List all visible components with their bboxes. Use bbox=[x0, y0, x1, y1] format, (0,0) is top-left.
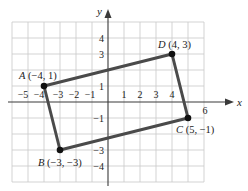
y-axis-arrow-icon bbox=[105, 9, 112, 18]
svg-text:−3: −3 bbox=[53, 89, 64, 100]
svg-text:6: 6 bbox=[203, 105, 208, 116]
svg-text:3: 3 bbox=[99, 49, 104, 60]
x-axis-label: x bbox=[236, 96, 242, 108]
point-C bbox=[185, 115, 192, 122]
svg-text:3: 3 bbox=[154, 89, 159, 100]
svg-text:−4: −4 bbox=[93, 161, 104, 172]
svg-text:4: 4 bbox=[170, 89, 175, 100]
label-point-A: A (−4, 1) bbox=[18, 70, 57, 82]
svg-text:4: 4 bbox=[99, 33, 104, 44]
label-point-B: B (−3, −3) bbox=[38, 157, 82, 169]
point-B bbox=[57, 147, 64, 154]
svg-text:−3: −3 bbox=[93, 145, 104, 156]
svg-text:−4: −4 bbox=[34, 89, 45, 100]
point-A bbox=[41, 83, 48, 90]
x-axis-arrow-icon bbox=[225, 99, 234, 106]
svg-text:−2: −2 bbox=[69, 89, 80, 100]
svg-text:2: 2 bbox=[138, 89, 143, 100]
svg-text:−1: −1 bbox=[85, 89, 96, 100]
svg-text:1: 1 bbox=[122, 89, 127, 100]
label-point-D: D (4, 3) bbox=[157, 39, 191, 51]
y-axis-label: y bbox=[96, 5, 102, 17]
svg-text:1: 1 bbox=[99, 81, 104, 92]
coordinate-plane: x y −5 −4 −3 −2 −1 1 2 3 4 6 4 3 1 −1 −3… bbox=[0, 0, 248, 191]
label-point-C: C (5, −1) bbox=[176, 124, 215, 136]
svg-text:−1: −1 bbox=[93, 113, 104, 124]
point-D bbox=[169, 51, 176, 58]
svg-text:−5: −5 bbox=[18, 89, 29, 100]
